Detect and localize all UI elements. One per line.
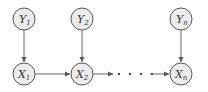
node-y2: Y2	[71, 8, 93, 30]
node-yn: Yn	[170, 8, 192, 30]
node-xn: Xn	[170, 63, 192, 85]
ellipsis	[118, 73, 153, 75]
node-x2: X2	[71, 63, 93, 85]
node-y1: Y1	[13, 8, 35, 30]
node-x1: X1	[13, 63, 35, 85]
graphical-model-diagram: Y1 Y2 Yn X1 X2 Xn	[0, 0, 208, 92]
